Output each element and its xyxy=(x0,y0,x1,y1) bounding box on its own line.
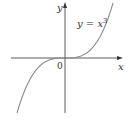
cubic-graph: y x 0 y = x3 xyxy=(0,0,132,123)
origin-label: 0 xyxy=(57,61,63,71)
curve-equation-label: y = x3 xyxy=(76,17,108,29)
x-axis-label: x xyxy=(118,61,124,72)
y-axis-arrow-icon xyxy=(63,2,67,8)
y-axis-label: y xyxy=(56,2,63,13)
x-axis-arrow-icon xyxy=(117,56,123,60)
